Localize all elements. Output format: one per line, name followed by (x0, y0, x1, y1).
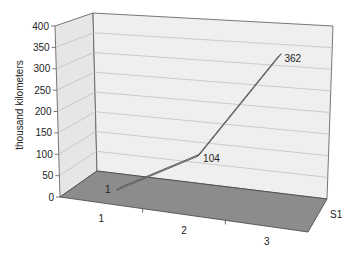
depth-axis-label: S1 (330, 209, 343, 220)
y-tick-label: 300 (34, 63, 51, 74)
y-tick-label: 100 (36, 149, 53, 160)
y-tick-label: 350 (33, 42, 50, 53)
back-wall (93, 13, 333, 199)
data-label: 1 (105, 184, 111, 195)
x-tick-label: 2 (181, 225, 187, 236)
line-chart-3d: 050100150200250300350400 123 1104362 tho… (0, 0, 359, 253)
y-tick-label: 250 (34, 85, 51, 96)
x-tick-label: 1 (99, 213, 105, 224)
y-tick-label: 200 (35, 106, 52, 117)
data-label: 104 (203, 153, 220, 164)
y-axis-title: thousand kilometers (14, 60, 25, 150)
x-tick-label: 3 (264, 236, 270, 247)
left-wall (55, 13, 97, 197)
data-label: 362 (284, 53, 301, 64)
y-tick-label: 0 (48, 192, 54, 203)
y-tick-label: 50 (42, 170, 54, 181)
y-tick-label: 150 (35, 127, 52, 138)
y-tick-label: 400 (32, 21, 49, 32)
